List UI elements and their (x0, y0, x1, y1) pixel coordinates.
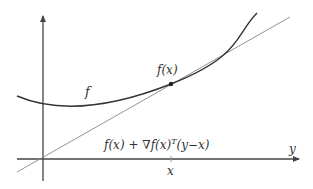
convex-curve (17, 13, 257, 106)
x-tick-label: x (167, 165, 174, 177)
tangent-formula-suffix: (y−x) (177, 138, 210, 152)
curve-label: f (85, 85, 90, 98)
tangent-formula: f(x) + ∇f(x)T(y−x) (104, 138, 210, 151)
tangent-point (169, 82, 173, 86)
convexity-diagram: f f(x) f(x) + ∇f(x)T(y−x) x y (0, 0, 313, 189)
point-label: f(x) (157, 64, 178, 76)
diagram-canvas (0, 0, 313, 189)
x-axis-label: y (289, 143, 296, 155)
tangent-formula-prefix: f(x) + ∇f(x) (104, 138, 171, 152)
